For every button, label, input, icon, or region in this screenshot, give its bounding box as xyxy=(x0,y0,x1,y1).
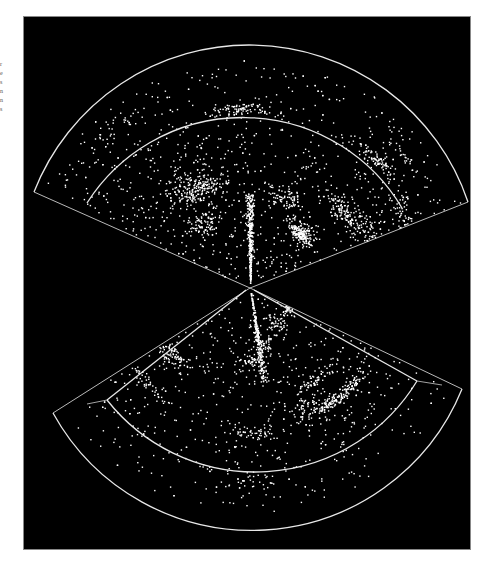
inner-right-edge xyxy=(254,290,417,381)
lower-wedge-points xyxy=(78,293,445,512)
inner-arc xyxy=(87,118,402,208)
outer-arc xyxy=(53,389,462,530)
right-connector xyxy=(417,381,442,385)
right-edge xyxy=(250,288,462,389)
lower-wedge-boundary xyxy=(53,288,462,530)
left-edge xyxy=(34,192,250,288)
right-edge xyxy=(250,202,468,288)
left-edge xyxy=(53,288,250,413)
upper-wedge-points xyxy=(48,60,461,284)
inner-arc xyxy=(107,381,417,472)
redshift-wedge-diagram xyxy=(0,0,489,566)
inner-left-edge xyxy=(107,290,246,400)
outer-arc xyxy=(34,45,468,202)
